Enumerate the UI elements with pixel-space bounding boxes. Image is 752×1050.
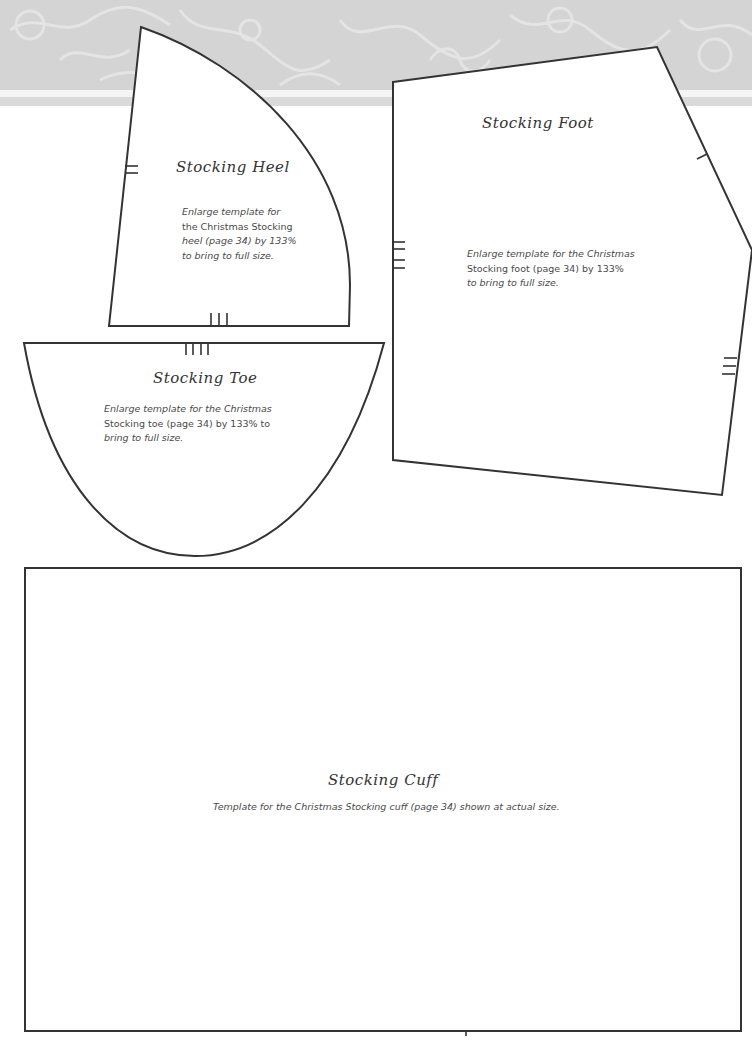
- toe-desc-line-3: bring to full size.: [104, 431, 272, 446]
- foot-desc-line-1: Enlarge template for the Christmas: [467, 247, 635, 262]
- heel-desc-line-4: to bring to full size.: [182, 249, 296, 264]
- foot-description: Enlarge template for the Christmas Stock…: [467, 247, 635, 291]
- toe-desc-line-2: Stocking toe (page 34) by 133% to: [104, 417, 272, 432]
- heel-title: Stocking Heel: [176, 158, 290, 176]
- template-shapes: [0, 0, 752, 1050]
- toe-description: Enlarge template for the Christmas Stock…: [104, 402, 272, 446]
- cuff-description: Template for the Christmas Stocking cuff…: [213, 800, 560, 815]
- heel-desc-line-3: heel (page 34) by 133%: [182, 234, 296, 249]
- heel-desc-line-1: Enlarge template for: [182, 205, 296, 220]
- heel-description: Enlarge template for the Christmas Stock…: [182, 205, 296, 263]
- heel-desc-line-2: the Christmas Stocking: [182, 220, 296, 235]
- foot-title: Stocking Foot: [482, 114, 594, 132]
- toe-title: Stocking Toe: [153, 369, 257, 387]
- foot-desc-line-2: Stocking foot (page 34) by 133%: [467, 262, 635, 277]
- toe-desc-line-1: Enlarge template for the Christmas: [104, 402, 272, 417]
- foot-desc-line-3: to bring to full size.: [467, 276, 635, 291]
- cuff-desc-line-1: Template for the Christmas Stocking cuff…: [213, 800, 560, 815]
- cuff-title: Stocking Cuff: [328, 771, 438, 789]
- heel-template-outline: [109, 27, 350, 326]
